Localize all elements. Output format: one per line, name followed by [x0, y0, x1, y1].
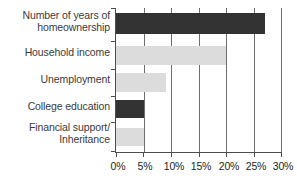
plot-area [116, 8, 281, 152]
y-axis-tick-2 [111, 69, 116, 70]
bar-college-education [116, 100, 144, 118]
bar-unemployment [116, 73, 166, 92]
y-axis-tick-4 [111, 122, 116, 123]
y-axis-tick-3 [111, 96, 116, 97]
x-axis-label-25: 25% [246, 160, 266, 172]
category-label-unemployment: Unemployment [2, 73, 110, 85]
bar-chart: Number of years of homeownership Househo… [0, 0, 297, 185]
y-axis-tick-0 [111, 8, 116, 9]
x-axis-label-5: 5% [138, 160, 153, 172]
category-label-financial-support-inheritance: Financial support/ Inheritance [2, 121, 110, 145]
x-axis-tick-5 [143, 152, 144, 157]
y-axis-tick-1 [111, 41, 116, 42]
bar-financial-support-inheritance [116, 128, 144, 146]
category-label-college-education: College education [2, 100, 110, 112]
bar-number-of-years-of-homeownership [116, 13, 265, 34]
x-axis-label-10: 10% [164, 160, 184, 172]
x-axis-tick-0 [116, 152, 117, 157]
x-axis-tick-30 [281, 152, 282, 157]
x-axis-tick-20 [226, 152, 227, 157]
gridline-30 [281, 8, 282, 152]
x-axis-tick-15 [199, 152, 200, 157]
x-axis-label-30: 30% [273, 160, 293, 172]
bar-household-income [116, 46, 226, 65]
category-label-column: Number of years of homeownership Househo… [0, 0, 113, 152]
x-axis-label-15: 15% [191, 160, 211, 172]
x-axis-label-20: 20% [219, 160, 239, 172]
category-label-number-of-years-of-homeownership: Number of years of homeownership [2, 9, 110, 33]
x-axis-label-0: 0% [111, 160, 126, 172]
category-label-household-income: Household income [2, 46, 110, 58]
x-axis-tick-25 [254, 152, 255, 157]
x-axis-tick-10 [171, 152, 172, 157]
